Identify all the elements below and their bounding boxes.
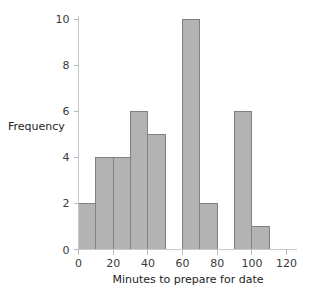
histogram-bar xyxy=(183,19,200,250)
y-tick-label: 0 xyxy=(63,244,70,257)
histogram-bar xyxy=(79,203,96,249)
y-tick-label: 8 xyxy=(63,59,70,72)
y-tick-label: 10 xyxy=(56,13,70,26)
chart-canvas: 0246810 020406080100120 Frequency Minute… xyxy=(0,0,316,294)
y-axis-title: Frequency xyxy=(8,120,65,133)
histogram-bar xyxy=(131,111,148,249)
x-axis-title: Minutes to prepare for date xyxy=(112,273,263,286)
x-tick-label: 0 xyxy=(75,257,82,270)
histogram-bar xyxy=(113,157,130,249)
histogram-chart: 0246810 020406080100120 Frequency Minute… xyxy=(0,0,316,294)
x-tick-label: 60 xyxy=(176,257,190,270)
x-tick-label: 80 xyxy=(210,257,224,270)
x-tick-label: 40 xyxy=(141,257,155,270)
x-tick-label: 100 xyxy=(241,257,262,270)
x-tick-label: 20 xyxy=(106,257,120,270)
histogram-bar xyxy=(148,134,165,249)
y-tick-label: 4 xyxy=(63,151,70,164)
histogram-bar xyxy=(96,157,113,249)
histogram-bar xyxy=(200,203,217,249)
y-tick-label: 2 xyxy=(63,197,70,210)
histogram-bar xyxy=(235,111,252,249)
x-tick-label: 120 xyxy=(276,257,297,270)
y-tick-label: 6 xyxy=(63,105,70,118)
histogram-bar xyxy=(252,226,269,249)
